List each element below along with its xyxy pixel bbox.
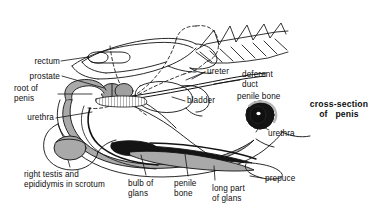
label-deferent-duct: deferent duct <box>242 70 290 89</box>
label-bulb-of-glans: bulb of glans <box>128 179 174 198</box>
label-long-part-of-glans: long part of glans <box>212 184 270 203</box>
inset-title-line1: cross-section <box>300 99 378 109</box>
label-urethra-left: urethra <box>2 113 54 123</box>
rectum-shape <box>88 52 130 63</box>
label-urethra-inset: urethra <box>268 129 312 139</box>
testis-shape <box>54 136 86 160</box>
label-prepuce: prepuce <box>265 174 313 184</box>
penis-cross-section-inset <box>246 101 276 130</box>
inset-title-line2: of penis <box>300 109 378 119</box>
anatomy-figure: rectum prostate root of penis urethra ri… <box>0 0 381 216</box>
label-ureter: ureter <box>207 67 245 77</box>
label-prostate: prostate <box>2 72 60 82</box>
label-penile-bone-lower: penile bone <box>174 179 214 198</box>
pelvic-bone-outline <box>72 38 217 79</box>
label-bladder: bladder <box>187 96 231 106</box>
label-rectum: rectum <box>6 57 60 67</box>
label-root-of-penis: root of penis <box>14 84 68 103</box>
label-penile-bone-inset: penile bone <box>237 92 297 102</box>
caudal-vertebrae-icon <box>196 23 288 63</box>
urethra-hatched-segment <box>95 96 146 107</box>
